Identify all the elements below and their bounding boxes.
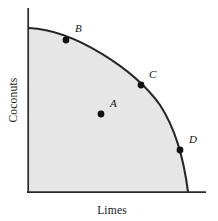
point-a-label: A [109, 97, 117, 109]
point-b-marker [63, 37, 70, 44]
ppf-figure: A B C D Limes Coconuts [0, 0, 218, 221]
point-c-marker [138, 82, 145, 89]
x-axis-label: Limes [97, 204, 127, 216]
point-c-label: C [149, 68, 157, 80]
point-b-label: B [75, 22, 82, 34]
point-d-marker [177, 147, 184, 154]
point-d-label: D [188, 133, 197, 145]
point-a-marker [98, 111, 105, 118]
ppf-chart: A B C D Limes Coconuts [0, 0, 218, 221]
y-axis-label: Coconuts [7, 77, 19, 122]
